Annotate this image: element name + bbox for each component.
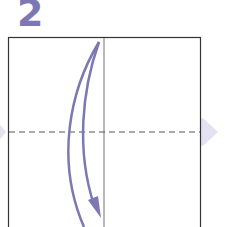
next-arrow-icon <box>200 118 218 146</box>
prev-arrow-icon <box>0 120 6 144</box>
fold-diagram <box>0 0 225 227</box>
